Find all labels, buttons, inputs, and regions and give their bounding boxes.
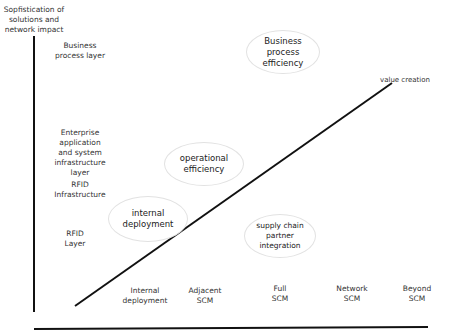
bubble-business-process-efficiency: Business process efficiency xyxy=(246,30,320,74)
x-category-network-scm: Network SCM xyxy=(327,284,377,304)
bubble-label: operational efficiency xyxy=(180,153,228,175)
x-category-beyond-scm: Beyond SCM xyxy=(395,284,439,304)
y-category-enterprise-application-layer: Enterprise application and system infras… xyxy=(45,128,115,178)
bubble-label: internal deployment xyxy=(123,208,174,230)
y-category-rfid-layer: RFID Layer xyxy=(45,229,105,249)
x-category-full-scm: Full SCM xyxy=(260,284,300,304)
x-category-internal-deployment: Internal deployment xyxy=(115,286,175,306)
y-axis-title: Sopfistication of solutions and network … xyxy=(0,5,68,35)
x-axis-line xyxy=(34,327,428,329)
bubble-internal-deployment: internal deployment xyxy=(108,196,188,242)
bubble-label: supply chain partner integration xyxy=(256,221,303,251)
bubble-label: Business process efficiency xyxy=(263,36,304,69)
bubble-supply-chain-partner-integration: supply chain partner integration xyxy=(244,214,316,258)
bubble-operational-efficiency: operational efficiency xyxy=(164,142,244,186)
value-creation-label: value creation xyxy=(380,75,449,85)
y-category-rfid-infrastructure: RFID Infrastructure xyxy=(45,180,115,200)
x-category-adjacent-scm: Adjacent SCM xyxy=(180,286,230,306)
value-creation-line xyxy=(75,83,392,306)
y-category-business-process-layer: Business process layer xyxy=(50,41,110,61)
